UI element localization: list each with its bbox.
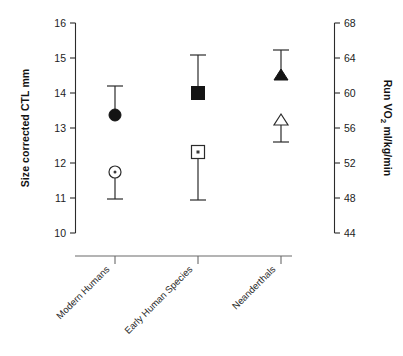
data-group-modern-humans xyxy=(107,86,123,199)
chart-canvas: 16 15 14 13 12 11 10 Size corrected CTL … xyxy=(0,0,403,356)
x-category-label-modern-humans: Modern Humans xyxy=(54,263,112,321)
datapoint-neanderthals-filled-triangle xyxy=(273,50,289,80)
right-axis-title: Run VO2 ml/kg/min xyxy=(379,80,394,177)
datapoint-modern-humans-filled-circle xyxy=(107,86,123,121)
right-tick-label-60: 60 xyxy=(344,87,356,99)
right-tick-label-44: 44 xyxy=(344,227,356,239)
right-axis-title-post: ml/kg/min xyxy=(382,123,394,176)
marker-filled-square xyxy=(192,87,205,100)
x-axis: Modern Humans Early Human Species Neande… xyxy=(54,256,292,336)
marker-filled-triangle xyxy=(274,69,288,80)
datapoint-early-human-species-filled-square xyxy=(190,55,206,100)
marker-center-dot-icon xyxy=(197,151,200,154)
left-tick-label-11: 11 xyxy=(55,192,66,204)
marker-open-triangle xyxy=(274,114,288,125)
x-category-label-early-human-species: Early Human Species xyxy=(122,263,195,336)
right-axis: 68 64 60 56 52 48 44 Run VO2 ml/kg/min xyxy=(335,17,395,239)
data-group-early-human-species xyxy=(190,55,206,200)
marker-center-dot-icon xyxy=(114,171,117,174)
right-axis-title-pre: Run VO xyxy=(382,80,394,119)
left-tick-label-15: 15 xyxy=(54,52,66,64)
right-tick-label-48: 48 xyxy=(344,192,356,204)
left-tick-label-12: 12 xyxy=(54,157,66,169)
marker-filled-circle xyxy=(109,109,121,121)
right-tick-label-56: 56 xyxy=(344,122,356,134)
right-tick-label-64: 64 xyxy=(344,52,356,64)
left-tick-label-13: 13 xyxy=(54,122,66,134)
x-category-label-neanderthals: Neanderthals xyxy=(230,263,278,311)
left-tick-label-14: 14 xyxy=(54,87,66,99)
left-tick-label-16: 16 xyxy=(54,17,66,29)
datapoint-neanderthals-open-triangle xyxy=(273,114,289,142)
right-tick-label-52: 52 xyxy=(344,157,356,169)
left-axis-title: Size corrected CTL mm xyxy=(19,69,31,188)
left-axis: 16 15 14 13 12 11 10 Size corrected CTL … xyxy=(19,17,76,239)
datapoint-early-human-species-open-square xyxy=(190,146,206,201)
data-group-neanderthals xyxy=(273,50,289,142)
right-tick-label-68: 68 xyxy=(344,17,356,29)
datapoint-modern-humans-open-circle xyxy=(107,166,123,199)
figure-container: 16 15 14 13 12 11 10 Size corrected CTL … xyxy=(0,0,403,356)
left-tick-label-10: 10 xyxy=(54,227,66,239)
